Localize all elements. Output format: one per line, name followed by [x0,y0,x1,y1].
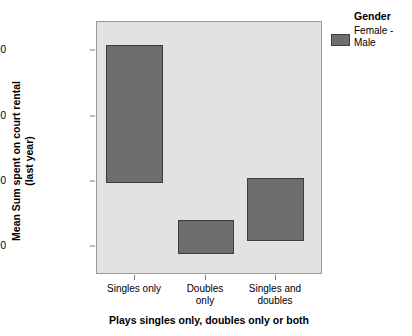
x-tick-mark-singles-only [134,275,135,280]
y-tick-label-1000: 1,000 [0,111,6,121]
x-tick-mark-singles-and-doubles [275,275,276,280]
y-tick-mark-800 [90,180,95,181]
y-axis-title-line-2: (last year) [23,61,36,261]
y-tick-mark-1000 [90,115,95,116]
x-tick-label-singles-and-doubles-line-1: Singles and [232,283,318,295]
plot-area [96,21,322,274]
legend-label-line-1: Female - [354,25,408,37]
y-tick-mark-600 [90,245,95,246]
bar-doubles-only [178,220,234,254]
y-tick-label-800: 800 [0,176,6,186]
y-tick-mark-1200 [90,50,95,51]
x-tick-label-singles-and-doubles-line-2: doubles [232,295,318,307]
x-tick-mark-doubles-only [205,275,206,280]
bar-singles-only [106,45,163,183]
legend-label-female-male: Female - Male [354,25,408,49]
x-axis-title: Plays singles only, doubles only or both [96,314,322,326]
legend-title: Gender [354,10,411,22]
range-bar-chart: 1,200 1,000 800 600 Mean Sum spent on co… [0,0,412,336]
y-tick-label-1200: 1,200 [0,45,6,55]
x-tick-label-singles-and-doubles: Singles and doubles [232,283,318,307]
y-axis-title-line-1: Mean Sum spent on court rental [10,61,23,261]
legend-item-female-male: Female - Male [331,25,411,49]
legend-swatch-female-male [331,34,350,46]
bar-singles-and-doubles [247,178,304,241]
legend: Gender Female - Male [331,10,411,49]
legend-label-line-2: Male [354,37,408,49]
y-tick-label-600: 600 [0,241,6,251]
y-axis-title: Mean Sum spent on court rental (last yea… [10,61,36,261]
